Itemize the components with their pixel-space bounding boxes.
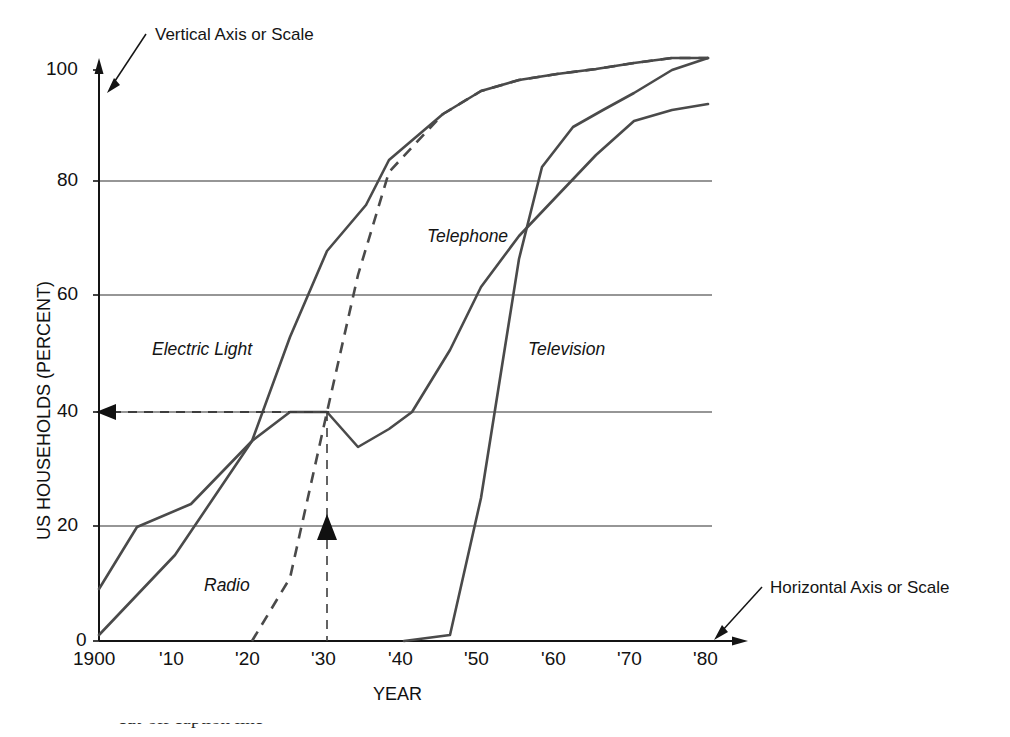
y-tick-label-40: 40 bbox=[57, 400, 78, 422]
y-axis bbox=[95, 58, 104, 641]
horizontal-axis-annotation: Horizontal Axis or Scale bbox=[770, 578, 950, 598]
x-axis-title: YEAR bbox=[373, 684, 422, 705]
series-label-electric-light: Electric Light bbox=[152, 339, 252, 360]
guide-arrow-up bbox=[317, 514, 337, 540]
horizontal-axis-leader bbox=[714, 587, 762, 640]
caption-text: cut-off caption line bbox=[118, 723, 263, 729]
y-axis-title: US HOUSEHOLDS (PERCENT) bbox=[34, 281, 55, 540]
vertical-axis-annotation: Vertical Axis or Scale bbox=[155, 25, 314, 45]
y-tick-label-80: 80 bbox=[57, 169, 78, 191]
y-tick-label-100: 100 bbox=[46, 58, 78, 80]
y-tick-label-60: 60 bbox=[57, 283, 78, 305]
x-tick-label-1960: '60 bbox=[541, 648, 566, 670]
y-tick-label-20: 20 bbox=[57, 514, 78, 536]
x-tick-label-1950: '50 bbox=[464, 648, 489, 670]
vertical-axis-leader bbox=[107, 34, 146, 93]
series-label-radio: Radio bbox=[204, 575, 250, 596]
x-tick-label-1900: 1900 bbox=[73, 648, 115, 670]
reading-guide-horizontal bbox=[96, 404, 330, 420]
x-tick-label-1940: '40 bbox=[388, 648, 413, 670]
line-chart-svg bbox=[0, 0, 1010, 737]
x-tick-label-1930: '30 bbox=[311, 648, 336, 670]
caption-cropped-strip: cut-off caption line bbox=[0, 723, 1010, 737]
x-tick-label-1920: '20 bbox=[235, 648, 260, 670]
series-label-television: Television bbox=[528, 339, 605, 360]
chart-figure: 100 80 60 40 20 0 1900 '10 '20 '30 '40 '… bbox=[0, 0, 1010, 737]
x-tick-label-1910: '10 bbox=[159, 648, 184, 670]
x-tick-label-1970: '70 bbox=[617, 648, 642, 670]
series-line-radio bbox=[252, 58, 708, 641]
x-tick-label-1980: '80 bbox=[693, 648, 718, 670]
series-label-telephone: Telephone bbox=[427, 226, 508, 247]
